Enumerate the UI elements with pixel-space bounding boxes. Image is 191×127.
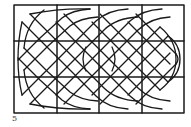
figure-label: 5 [12, 114, 17, 124]
construction-grid [14, 5, 184, 113]
knotwork-figure [0, 0, 191, 127]
knotwork-diagram [0, 0, 191, 127]
